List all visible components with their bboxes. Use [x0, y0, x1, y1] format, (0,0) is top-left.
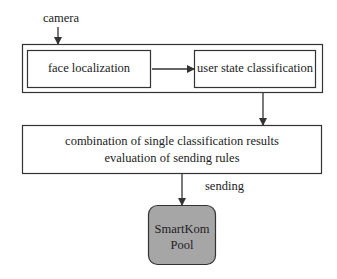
pool-label-line1: SmartKom	[155, 222, 210, 236]
pool-label-line2: Pool	[171, 238, 194, 252]
user-state-classification-label: user state classification	[197, 61, 314, 75]
face-localization-label: face localization	[48, 61, 131, 75]
sending-label: sending	[205, 179, 245, 193]
combination-box	[23, 126, 322, 174]
flow-diagram: camera face localization user state clas…	[0, 0, 337, 279]
combination-label-line1: combination of single classification res…	[65, 134, 279, 148]
camera-label: camera	[43, 11, 80, 25]
combination-label-line2: evaluation of sending rules	[104, 151, 239, 165]
